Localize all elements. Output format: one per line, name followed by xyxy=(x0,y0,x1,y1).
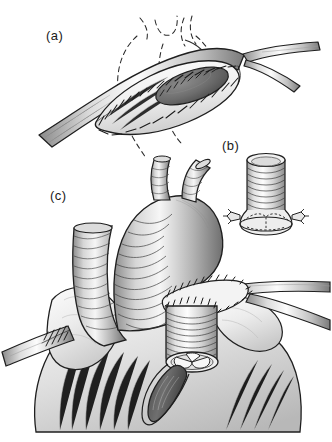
panel-b-label: (b) xyxy=(222,138,239,153)
surgical-illustration: (a) xyxy=(0,0,332,442)
figure-root: (a) xyxy=(0,0,332,442)
panel-c-label: (c) xyxy=(50,188,67,203)
panel-a-label: (a) xyxy=(46,28,63,43)
svc-rim xyxy=(74,223,112,233)
conduit-rim xyxy=(247,154,285,167)
